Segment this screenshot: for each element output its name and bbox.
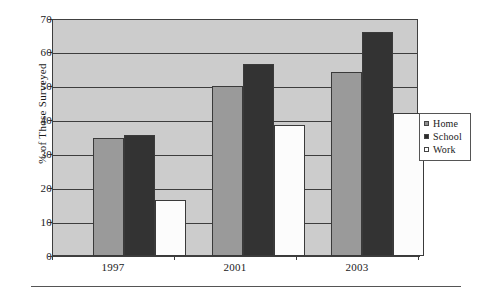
legend-swatch-home-icon [424, 121, 429, 126]
legend-label-work: Work [433, 144, 456, 156]
y-axis-title-wrap: % of Those Surveyed [22, 0, 42, 276]
bar-2003-home [331, 72, 362, 256]
legend-label-home: Home [433, 118, 458, 130]
bar-chart-figure: 70 60 50 40 30 20 10 0 % of Those Survey… [0, 0, 492, 293]
y-axis-title: % of Those Surveyed [37, 34, 48, 194]
bar-2001-work [274, 125, 305, 257]
x-tick-label-2001: 2001 [200, 261, 270, 273]
x-tick-mark-2 [296, 256, 297, 260]
bars-layer [53, 20, 417, 256]
x-tick-mark-0 [52, 256, 53, 260]
x-tick-mark-3 [418, 256, 419, 260]
legend-swatch-school-icon [424, 134, 429, 139]
legend-swatch-work-icon [424, 147, 429, 152]
bottom-divider [31, 286, 461, 287]
legend-item-home: Home [424, 117, 466, 130]
bar-1997-work [155, 200, 186, 256]
legend-item-school: School [424, 130, 466, 143]
legend-item-work: Work [424, 143, 466, 156]
bar-2001-home [212, 86, 243, 256]
x-axis-line [48, 256, 420, 257]
bar-2001-school [243, 64, 274, 256]
bar-2003-school [362, 32, 393, 256]
x-tick-label-2003: 2003 [322, 261, 392, 273]
chart-legend: Home School Work [419, 113, 471, 161]
legend-label-school: School [433, 131, 462, 143]
bar-1997-school [124, 135, 155, 256]
x-tick-label-1997: 1997 [78, 261, 148, 273]
x-tick-mark-1 [174, 256, 175, 260]
y-axis-line [52, 19, 53, 257]
bar-1997-home [93, 138, 124, 256]
